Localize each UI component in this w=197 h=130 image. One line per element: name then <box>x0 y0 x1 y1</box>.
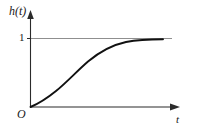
function-graph-figure: h(t) t O 1 <box>0 0 197 130</box>
x-axis-label: t <box>176 114 179 125</box>
origin-label: O <box>17 108 26 120</box>
plot-canvas <box>0 0 197 130</box>
curve-h-of-t <box>31 39 164 107</box>
y-axis-label: h(t) <box>9 5 26 17</box>
y-axis-arrow-icon <box>27 10 34 19</box>
y-tick-label-one: 1 <box>19 32 25 43</box>
x-axis-arrow-icon <box>170 104 180 111</box>
